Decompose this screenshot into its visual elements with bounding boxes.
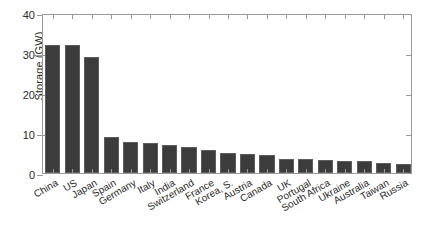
- x-axis-tick-labels: ChinaUSJapanSpainGermanyItalyIndiaSwitze…: [42, 176, 412, 231]
- x-axis-tick-top: [170, 15, 171, 19]
- x-axis-tick-top: [403, 15, 404, 19]
- y-axis-tick: [37, 15, 43, 16]
- x-axis-tick-top: [92, 15, 93, 19]
- y-axis-tick-label: 10: [23, 129, 35, 141]
- x-axis-tick: [53, 169, 54, 173]
- y-axis-tick-inner-right: [406, 95, 411, 96]
- x-axis-tick-top: [189, 15, 190, 19]
- x-axis-tick-top: [247, 15, 248, 19]
- x-axis-tick-top: [209, 15, 210, 19]
- x-axis-tick-top: [72, 15, 73, 19]
- y-axis-tick-label: 20: [23, 89, 35, 101]
- x-axis-tick-top: [267, 15, 268, 19]
- x-axis-tick-top: [228, 15, 229, 19]
- y-axis-tick-inner-right: [406, 135, 411, 136]
- plot-area: 010203040: [42, 14, 412, 174]
- bar: [84, 57, 99, 173]
- x-axis-tick-top: [384, 15, 385, 19]
- x-axis-tick-top: [325, 15, 326, 19]
- x-axis-tick: [306, 169, 307, 173]
- x-axis-tick-top: [53, 15, 54, 19]
- x-axis-tick-top: [306, 15, 307, 19]
- x-axis-tick-top: [150, 15, 151, 19]
- y-axis-tick-label: 30: [23, 49, 35, 61]
- bar: [65, 45, 80, 173]
- y-axis-tick-label: 40: [23, 9, 35, 21]
- x-axis-tick-top: [131, 15, 132, 19]
- x-axis-tick-top: [364, 15, 365, 19]
- chart-figure: Storage (GW) 010203040 ChinaUSJapanSpain…: [0, 0, 425, 231]
- x-axis-tick-label-text: China: [31, 176, 61, 200]
- x-axis-tick-top: [345, 15, 346, 19]
- y-axis-tick-inner-right: [406, 55, 411, 56]
- plot-inner: 010203040: [43, 15, 411, 173]
- x-axis-tick-top: [111, 15, 112, 19]
- bar: [45, 45, 60, 173]
- x-axis-tick-top: [286, 15, 287, 19]
- y-axis-tick-label: 0: [29, 169, 35, 181]
